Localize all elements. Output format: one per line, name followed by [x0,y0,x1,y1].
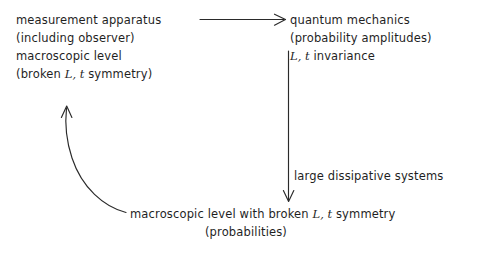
diagram-canvas: measurement apparatus (including observe… [0,0,494,253]
arrow-quantum-to-macroscopic [283,51,293,202]
invariance-symbol: L, t [290,49,310,63]
node-measurement-line-4: (broken L, t symmetry) [16,65,161,83]
node-quantum-line-1: quantum mechanics [290,11,432,29]
node-measurement-apparatus: measurement apparatus (including observe… [16,11,161,83]
node-measurement-line-1: measurement apparatus [16,11,161,29]
edge-label-large-dissipative-systems: large dissipative systems [294,167,443,185]
node-measurement-line-4-pre: (broken [16,67,65,81]
node-macroscopic-line-1-post: symmetry [332,207,395,221]
node-macroscopic-line-1: macroscopic level with broken L, t symme… [130,205,395,223]
node-quantum-mechanics: quantum mechanics (probability amplitude… [290,11,432,65]
node-macroscopic-line-2: (probabilities) [130,223,362,241]
node-measurement-line-3: macroscopic level [16,47,161,65]
node-macroscopic-broken-symmetry: macroscopic level with broken L, t symme… [130,205,395,241]
node-quantum-line-3: L, t invariance [290,47,432,65]
broken-symmetry-symbol: L, t [313,207,333,221]
node-quantum-line-2: (probability amplitudes) [290,29,432,47]
node-macroscopic-line-1-pre: macroscopic level with broken [130,207,313,221]
symmetry-symbol: L, t [65,67,85,81]
node-measurement-line-4-post: symmetry) [84,67,152,81]
arrow-macroscopic-to-measurement [61,106,126,213]
node-measurement-line-2: (including observer) [16,29,161,47]
node-quantum-line-3-post: invariance [310,49,375,63]
arrow-measurement-to-quantum [200,14,286,25]
